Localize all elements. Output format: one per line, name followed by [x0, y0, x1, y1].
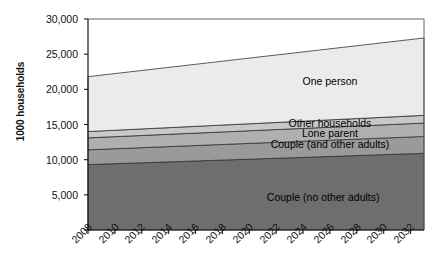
- series-label-couple-no-other-adults: Couple (no other adults): [267, 191, 380, 203]
- area-band-one-person: [88, 38, 424, 132]
- series-label-couple-and-other-adults: Couple (and other adults): [271, 138, 390, 150]
- series-label-one-person: One person: [302, 75, 357, 87]
- series-label-lone-parent: Lone parent: [302, 127, 358, 139]
- series-label-other-households: Other households: [288, 117, 371, 129]
- stacked-area-chart: 1000 households 5,00010,00015,00020,0002…: [0, 0, 446, 272]
